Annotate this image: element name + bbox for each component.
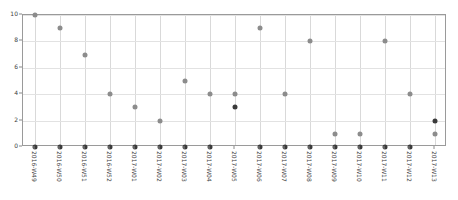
x-tick-mark <box>59 146 60 149</box>
y-tick-label: 10 <box>10 11 18 17</box>
data-point <box>83 52 88 57</box>
x-tick-label: 2017-W12 <box>406 151 412 182</box>
plot-area <box>22 14 446 146</box>
scatter-chart-figure: 0246810 2016-W492016-W502016-W512016-W52… <box>0 0 458 200</box>
data-point <box>257 26 262 31</box>
x-tick-label: 2017-W09 <box>331 151 337 182</box>
data-point <box>233 92 238 97</box>
data-point <box>33 13 38 18</box>
x-tick-label: 2017-W07 <box>281 151 287 182</box>
y-tick-label: 2 <box>14 117 18 123</box>
x-tick-label: 2017-W05 <box>231 151 237 182</box>
y-axis: 0246810 <box>0 14 22 146</box>
y-tick-mark <box>19 40 22 41</box>
x-tick-label: 2017-W02 <box>156 151 162 182</box>
data-point <box>407 92 412 97</box>
y-tick-mark <box>19 119 22 120</box>
x-tick-mark <box>209 146 210 149</box>
x-tick-mark <box>308 146 309 149</box>
y-tick-label: 6 <box>14 64 18 70</box>
data-point <box>208 92 213 97</box>
data-points-layer <box>23 15 445 145</box>
x-tick-label: 2017-W13 <box>431 151 437 182</box>
data-point <box>58 26 63 31</box>
x-tick-label: 2017-W03 <box>181 151 187 182</box>
x-tick-label: 2017-W08 <box>306 151 312 182</box>
x-tick-label: 2016-W49 <box>31 151 37 182</box>
x-tick-mark <box>258 146 259 149</box>
data-point <box>357 131 362 136</box>
data-point <box>432 131 437 136</box>
x-tick-mark <box>383 146 384 149</box>
x-tick-mark <box>283 146 284 149</box>
data-point <box>282 92 287 97</box>
data-point <box>108 92 113 97</box>
y-tick-label: 0 <box>14 143 18 149</box>
y-tick-mark <box>19 14 22 15</box>
y-tick-label: 8 <box>14 37 18 43</box>
x-tick-label: 2017-W01 <box>131 151 137 182</box>
data-point <box>158 118 163 123</box>
x-tick-mark <box>159 146 160 149</box>
data-point <box>233 105 238 110</box>
x-tick-mark <box>34 146 35 149</box>
x-tick-label: 2017-W10 <box>356 151 362 182</box>
x-tick-label: 2016-W51 <box>81 151 87 182</box>
data-point <box>332 131 337 136</box>
x-tick-mark <box>433 146 434 149</box>
y-tick-mark <box>19 93 22 94</box>
data-point <box>307 39 312 44</box>
x-tick-label: 2017-W04 <box>206 151 212 182</box>
x-tick-mark <box>234 146 235 149</box>
x-tick-label: 2017-W11 <box>381 151 387 182</box>
x-tick-mark <box>84 146 85 149</box>
data-point <box>133 105 138 110</box>
x-axis: 2016-W492016-W502016-W512016-W522017-W01… <box>22 146 446 200</box>
x-tick-mark <box>333 146 334 149</box>
x-tick-mark <box>109 146 110 149</box>
x-tick-label: 2016-W52 <box>106 151 112 182</box>
data-point <box>432 118 437 123</box>
x-tick-mark <box>184 146 185 149</box>
x-tick-label: 2017-W06 <box>256 151 262 182</box>
x-tick-label: 2016-W50 <box>56 151 62 182</box>
x-tick-mark <box>408 146 409 149</box>
data-point <box>382 39 387 44</box>
data-point <box>183 79 188 84</box>
x-tick-mark <box>134 146 135 149</box>
x-tick-mark <box>358 146 359 149</box>
y-tick-label: 4 <box>14 90 18 96</box>
y-tick-mark <box>19 66 22 67</box>
